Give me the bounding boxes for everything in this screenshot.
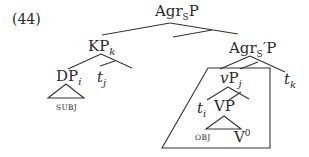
node-little-vp: vPj [220, 71, 242, 86]
branch-root-bar [173, 30, 212, 37]
example-number: (44) [12, 12, 41, 26]
leaf-obj: OBJ [195, 134, 211, 142]
node-kp: KPk [88, 39, 115, 54]
leaf-subj: SUBJ [56, 104, 77, 112]
node-trace-tj: tj [97, 70, 106, 85]
branch-root-left [102, 23, 170, 35]
branch-root-right [170, 23, 238, 34]
node-trace-tk: tk [284, 72, 296, 87]
branch-kp-bar [100, 61, 115, 66]
node-agrs-bar-p: AgrS′P [229, 41, 276, 56]
node-trace-ti: ti [197, 101, 206, 116]
node-dp: DPi [56, 69, 81, 84]
node-v0: V0 [234, 130, 251, 145]
tree-branches [0, 0, 309, 157]
node-agrsp: AgrSP [155, 4, 199, 19]
syntax-tree-diagram: (44) AgrSP KPk AgrS′P DPi tj SUBJ tk vPj… [0, 0, 309, 157]
node-vp: VP [214, 99, 235, 114]
branch-kp-right [101, 54, 132, 68]
branch-agrsbar-right [250, 56, 285, 72]
